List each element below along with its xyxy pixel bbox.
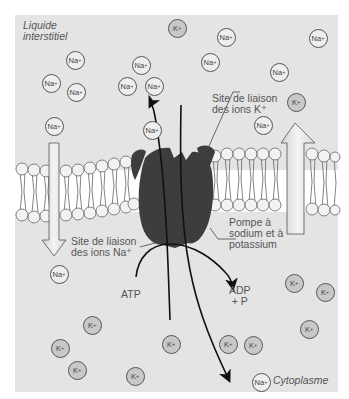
potassium-ion: K+ <box>316 283 335 302</box>
sodium-ion: Na+ <box>45 117 64 136</box>
sodium-ion: Na+ <box>217 28 236 47</box>
potassium-ion: K+ <box>68 361 87 380</box>
potassium-ion: K+ <box>168 19 187 38</box>
potassium-ion: K+ <box>51 339 70 358</box>
sodium-ion: Na+ <box>145 77 164 96</box>
sodium-ion: Na+ <box>118 77 137 96</box>
adp-label: ADP + P <box>229 285 251 307</box>
potassium-ion: K+ <box>219 335 238 354</box>
sodium-ion: Na+ <box>270 63 289 82</box>
sodium-ion: Na+ <box>143 121 162 140</box>
sodium-ion: Na+ <box>132 56 151 75</box>
potassium-ion: K+ <box>126 367 145 386</box>
cytoplasm-label: Cytoplasme <box>273 375 328 386</box>
sodium-ion: Na+ <box>254 116 273 135</box>
pump-label: Pompe à sodium et à potassium <box>229 217 283 250</box>
potassium-ion: K+ <box>162 335 181 354</box>
potassium-ion: K+ <box>287 93 306 112</box>
sodium-potassium-pump-diagram: Liquide interstitiel Cytoplasme Site de … <box>0 0 349 399</box>
extracellular-label: Liquide interstitiel <box>23 20 67 42</box>
na-binding-site-label: Site de liaison des ions Na⁺ <box>71 236 136 258</box>
sodium-ion: Na+ <box>42 74 61 93</box>
potassium-ion: K+ <box>300 320 319 339</box>
atp-label: ATP <box>121 289 141 300</box>
potassium-ion: K+ <box>83 316 102 335</box>
k-binding-site-label: Site de liaison des ions K⁺ <box>212 93 277 115</box>
sodium-ion: Na+ <box>50 265 69 284</box>
sodium-ion: Na+ <box>67 83 86 102</box>
sodium-ion: Na+ <box>309 29 328 48</box>
sodium-ion: Na+ <box>66 51 85 70</box>
sodium-ion: Na+ <box>201 53 220 72</box>
sodium-ion: Na+ <box>252 373 271 392</box>
potassium-ion: K+ <box>285 274 304 293</box>
potassium-ion: K+ <box>244 336 263 355</box>
